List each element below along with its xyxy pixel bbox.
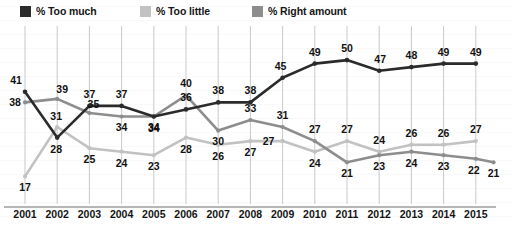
data-label: 24 xyxy=(406,157,418,169)
data-point xyxy=(313,150,317,154)
data-label: 28 xyxy=(180,143,192,155)
data-point xyxy=(120,150,124,154)
data-point xyxy=(248,139,252,143)
data-label: 34 xyxy=(148,122,160,134)
data-point xyxy=(281,125,285,129)
data-point xyxy=(491,160,495,164)
data-point xyxy=(377,153,381,157)
data-point xyxy=(184,136,188,140)
data-label: 31 xyxy=(277,109,289,121)
data-point xyxy=(23,90,28,95)
data-point xyxy=(377,68,382,73)
data-label: 38 xyxy=(9,96,21,108)
x-tick-label: 2004 xyxy=(110,208,133,220)
data-point xyxy=(280,75,285,80)
data-point xyxy=(345,58,350,63)
data-label: 40 xyxy=(180,77,192,89)
legend-swatch-too-little xyxy=(140,6,151,17)
data-point xyxy=(474,157,478,161)
data-label: 24 xyxy=(373,134,385,146)
x-tick-label: 2009 xyxy=(271,208,294,220)
data-point xyxy=(55,97,59,101)
data-point xyxy=(87,111,91,115)
data-label: 37 xyxy=(116,88,128,100)
data-point xyxy=(442,153,446,157)
data-point xyxy=(281,139,285,143)
data-label: 26 xyxy=(212,150,224,162)
x-tick-label: 2006 xyxy=(174,208,197,220)
data-label: 45 xyxy=(275,60,287,72)
data-label: 31 xyxy=(50,110,62,122)
data-label: 21 xyxy=(488,167,500,179)
data-label: 23 xyxy=(438,160,450,172)
data-label: 30 xyxy=(212,135,224,147)
plot-svg: 1731252423282627272427242626273839353434… xyxy=(0,26,512,204)
data-point xyxy=(152,114,157,119)
chart-legend: % Too much % Too little % Right amount xyxy=(0,0,512,26)
legend-label-right-amount: % Right amount xyxy=(268,6,347,17)
data-point xyxy=(409,65,414,70)
data-point xyxy=(248,118,252,122)
data-label: 50 xyxy=(341,42,353,54)
data-point xyxy=(87,146,91,150)
legend-label-too-little: % Too little xyxy=(156,6,210,17)
data-point xyxy=(474,139,478,143)
x-tick-label: 2012 xyxy=(368,208,391,220)
data-label: 27 xyxy=(263,135,275,147)
legend-item-too-little[interactable]: % Too little xyxy=(140,6,210,17)
data-label: 38 xyxy=(245,84,257,96)
data-label: 24 xyxy=(116,157,128,169)
data-label: 36 xyxy=(180,91,192,103)
data-point xyxy=(216,129,220,133)
data-label: 41 xyxy=(10,74,22,86)
x-tick-label: 2005 xyxy=(142,208,165,220)
data-label: 27 xyxy=(309,123,321,135)
data-label: 26 xyxy=(406,127,418,139)
legend-item-right-amount[interactable]: % Right amount xyxy=(252,6,347,17)
data-point xyxy=(55,135,60,140)
x-tick-label: 2014 xyxy=(432,208,455,220)
data-label: 23 xyxy=(148,160,160,172)
data-label: 27 xyxy=(470,123,482,135)
x-tick-label: 2008 xyxy=(239,208,262,220)
legend-label-too-much: % Too much xyxy=(36,6,97,17)
x-tick-label: 2015 xyxy=(464,208,487,220)
data-point xyxy=(119,104,124,109)
data-point xyxy=(409,143,413,147)
x-axis: 2001200220032004200520062007200820092010… xyxy=(0,206,512,230)
data-point xyxy=(441,61,446,66)
x-tick-label: 2010 xyxy=(303,208,326,220)
x-tick-label: 2002 xyxy=(46,208,69,220)
data-label: 25 xyxy=(84,153,96,165)
data-point xyxy=(23,100,27,104)
legend-swatch-too-much xyxy=(20,6,31,17)
legend-item-too-much[interactable]: % Too much xyxy=(20,6,97,17)
data-point xyxy=(313,139,317,143)
data-point xyxy=(409,150,413,154)
data-label: 48 xyxy=(406,49,418,61)
data-label: 37 xyxy=(84,88,96,100)
data-label: 23 xyxy=(373,160,385,172)
data-point xyxy=(152,153,156,157)
data-label: 39 xyxy=(56,83,68,95)
data-point xyxy=(120,114,124,118)
data-label: 28 xyxy=(50,143,62,155)
line-chart: % Too much % Too little % Right amount 1… xyxy=(0,0,512,230)
legend-swatch-right-amount xyxy=(252,6,263,17)
data-point xyxy=(345,139,349,143)
data-label: 17 xyxy=(19,181,31,193)
data-label: 33 xyxy=(245,102,257,114)
x-tick-label: 2011 xyxy=(336,208,359,220)
x-tick-label: 2003 xyxy=(78,208,101,220)
data-label: 22 xyxy=(468,164,480,176)
data-point xyxy=(442,143,446,147)
data-label: 27 xyxy=(341,123,353,135)
plot-area: 1731252423282627272427242626273839353434… xyxy=(0,26,512,204)
data-label: 26 xyxy=(438,127,450,139)
data-point xyxy=(55,125,59,129)
data-label: 49 xyxy=(470,46,482,58)
x-tick-label: 2007 xyxy=(207,208,230,220)
data-point xyxy=(23,174,27,178)
x-tick-label: 2001 xyxy=(13,208,36,220)
data-label: 38 xyxy=(212,84,224,96)
